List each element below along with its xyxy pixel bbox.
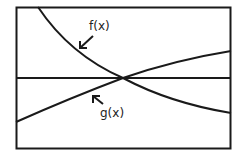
f-curve [38,7,231,113]
f-label: f(x) [89,19,110,33]
g-arrow-icon [93,96,103,104]
g-label: g(x) [100,106,124,120]
function-graph: f(x) g(x) [0,0,242,154]
f-arrow-icon [80,36,93,48]
